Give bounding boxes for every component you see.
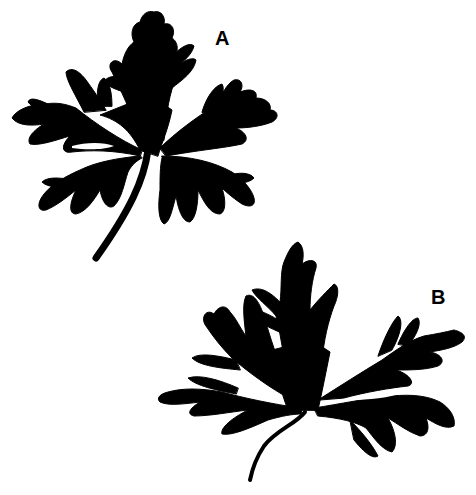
leaf-a-silhouette: [12, 11, 277, 258]
panel-label-b: B: [431, 287, 445, 307]
leaf-b-silhouette: [158, 242, 464, 480]
leaf-silhouettes: [0, 0, 476, 495]
leaf-comparison-figure: A B: [0, 0, 476, 495]
panel-label-a: A: [215, 28, 229, 48]
